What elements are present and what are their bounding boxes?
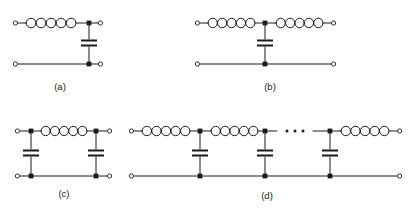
circuit-diagram-canvas: (a) (b) [0, 0, 411, 213]
port-terminal [108, 174, 112, 178]
junction-node [29, 129, 34, 134]
inductor-coil [26, 18, 76, 28]
junction-node [263, 21, 268, 26]
junction-node [94, 129, 99, 134]
capacitor-plates [257, 151, 273, 156]
circuit-label-b: (b) [264, 81, 276, 92]
circuit-label-c: (c) [58, 188, 69, 199]
capacitor-plates [322, 151, 338, 156]
junction-node [87, 21, 92, 26]
junction-node [263, 129, 268, 134]
port-terminal [98, 62, 102, 66]
junction-node [94, 174, 99, 179]
circuit-label-a: (a) [54, 81, 66, 92]
junction-node [328, 129, 333, 134]
port-terminal [332, 62, 336, 66]
port-terminal [13, 62, 17, 66]
port-terminal [98, 21, 102, 25]
port-terminal [129, 129, 133, 133]
capacitor-plates [88, 151, 104, 156]
port-terminal [398, 174, 402, 178]
port-terminal [129, 174, 133, 178]
circuit-label-d: (d) [261, 190, 273, 201]
circuit-c: (c) [15, 126, 111, 199]
port-terminal [13, 21, 17, 25]
junction-node [263, 62, 268, 67]
inductor-coil [208, 18, 255, 28]
port-terminal [195, 62, 199, 66]
inductor-coil [41, 126, 87, 135]
capacitor-plates [23, 151, 39, 156]
junction-node [198, 129, 203, 134]
continuation-ellipsis [286, 130, 305, 133]
port-terminal [398, 129, 402, 133]
capacitor-plates [257, 41, 273, 46]
junction-node [87, 62, 92, 67]
inductor-coil [276, 18, 323, 28]
port-terminal [332, 21, 336, 25]
inductor-coil [211, 126, 258, 136]
circuit-a: (a) [13, 18, 102, 92]
port-terminal [195, 21, 199, 25]
circuit-figure: (a) (b) [0, 0, 411, 213]
port-terminal [15, 129, 19, 133]
junction-node [263, 174, 268, 179]
inductor-coil [142, 126, 190, 136]
port-terminal [108, 129, 112, 133]
circuit-d: (d) [129, 126, 401, 201]
circuit-b: (b) [195, 18, 335, 92]
junction-node [29, 174, 34, 179]
capacitor-plates [81, 41, 97, 46]
junction-node [328, 174, 333, 179]
junction-node [198, 174, 203, 179]
inductor-coil [341, 126, 389, 136]
port-terminal [15, 174, 19, 178]
capacitor-plates [192, 151, 208, 156]
